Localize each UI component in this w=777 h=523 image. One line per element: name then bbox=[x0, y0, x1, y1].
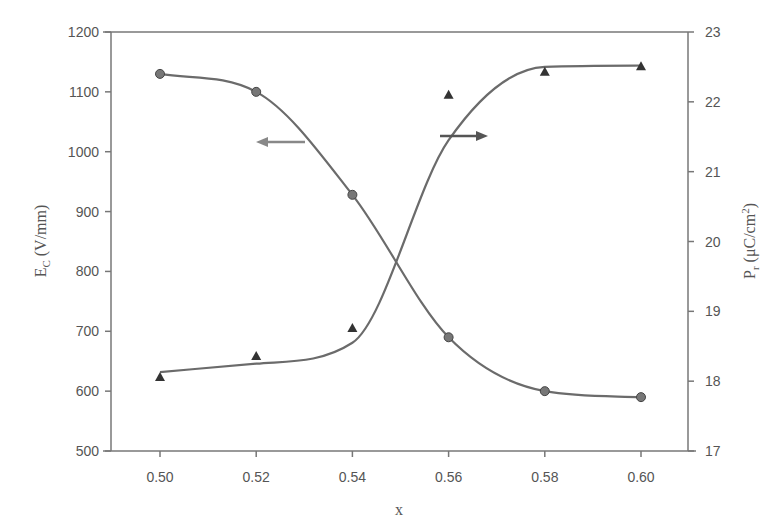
ec-circle-marker bbox=[156, 69, 165, 78]
chart: 5006007008009001000110012001718192021222… bbox=[0, 0, 777, 523]
pr-triangle-marker bbox=[155, 372, 165, 381]
x-tick-label: 0.52 bbox=[243, 469, 270, 485]
y-left-tick-label: 1200 bbox=[68, 24, 99, 40]
pr-triangle-marker bbox=[251, 351, 261, 360]
x-tick-label: 0.50 bbox=[146, 469, 173, 485]
ec-fit-curve bbox=[160, 74, 641, 397]
right-arrow-head-icon bbox=[476, 131, 488, 141]
y-right-tick-label: 22 bbox=[705, 94, 721, 110]
ec-circle-marker bbox=[444, 333, 453, 342]
ec-circle-marker bbox=[252, 87, 261, 96]
fit-curves bbox=[160, 66, 641, 398]
x-tick-label: 0.56 bbox=[435, 469, 462, 485]
y-left-tick-label: 500 bbox=[76, 443, 100, 459]
y-left-tick-label: 700 bbox=[76, 323, 100, 339]
y-left-tick-label: 600 bbox=[76, 383, 100, 399]
y-left-tick-label: 900 bbox=[76, 204, 100, 220]
ec-circle-marker bbox=[348, 190, 357, 199]
ec-circle-marker bbox=[637, 393, 646, 402]
y-right-tick-label: 23 bbox=[705, 24, 721, 40]
y-left-tick-label: 800 bbox=[76, 263, 100, 279]
pr-triangle-marker bbox=[444, 90, 454, 99]
x-tick-label: 0.60 bbox=[627, 469, 654, 485]
y-right-tick-label: 21 bbox=[705, 164, 721, 180]
y-right-tick-label: 18 bbox=[705, 373, 721, 389]
x-tick-label: 0.54 bbox=[339, 469, 366, 485]
left-arrow-head-icon bbox=[256, 137, 268, 147]
ec-circle-marker bbox=[540, 387, 549, 396]
x-tick-label: 0.58 bbox=[531, 469, 558, 485]
data-markers bbox=[155, 61, 646, 401]
pr-fit-curve bbox=[160, 66, 641, 373]
y-axis-right-title: Pr (μC/cm2) bbox=[739, 203, 761, 279]
pr-triangle-marker bbox=[347, 323, 357, 332]
y-right-tick-label: 17 bbox=[705, 443, 721, 459]
plot-axes: 5006007008009001000110012001718192021222… bbox=[68, 24, 721, 485]
y-left-tick-label: 1100 bbox=[69, 84, 99, 100]
y-axis-left-title: EC (V/mm) bbox=[32, 205, 52, 278]
y-right-tick-label: 19 bbox=[705, 303, 721, 319]
y-right-tick-label: 20 bbox=[705, 234, 721, 250]
y-left-tick-label: 1000 bbox=[68, 144, 99, 160]
x-axis-title: x bbox=[395, 501, 403, 518]
